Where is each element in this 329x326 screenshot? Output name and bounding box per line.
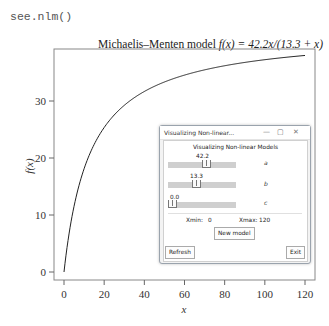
slider-c[interactable] [168,202,236,208]
slider-b[interactable] [168,182,236,188]
y-axis: 0102030 [35,95,54,278]
svg-text:30: 30 [35,95,47,107]
nlm-dialog: Visualizing Non-linear... — ▢ ✕ Visualiz… [159,125,311,264]
slider-c-thumb[interactable] [168,200,177,208]
xmin-input[interactable]: 0 [208,217,212,223]
minimize-icon[interactable]: — [263,128,270,136]
svg-text:120: 120 [297,288,314,300]
param-b-label: b [264,180,268,187]
svg-text:0: 0 [61,288,67,300]
xmax-input[interactable]: 120 [259,217,270,223]
dialog-titlebar[interactable]: Visualizing Non-linear... — ▢ ✕ [160,126,310,140]
svg-text:20: 20 [99,288,111,300]
dialog-title: Visualizing Non-linear... [164,129,234,136]
xmax-label: Xmax: [239,217,258,223]
slider-a[interactable] [168,162,236,168]
svg-text:60: 60 [179,288,191,300]
svg-text:80: 80 [219,288,231,300]
slider-b-thumb[interactable] [192,180,201,188]
svg-text:0: 0 [41,266,47,278]
y-axis-label: f(x) [23,158,36,174]
divider [168,213,302,214]
exit-button[interactable]: Exit [286,246,305,259]
svg-text:10: 10 [35,209,47,221]
xmin-label: Xmin: [186,217,203,223]
svg-text:20: 20 [35,152,47,164]
dialog-header: Visualizing Non-linear Models [164,144,307,150]
slider-a-value: 42.2 [196,153,209,159]
slider-a-thumb[interactable] [202,160,211,168]
dialog-body: Visualizing Non-linear Models 42.2 a 13.… [163,140,308,262]
svg-text:40: 40 [139,288,151,300]
param-a-label: a [264,159,268,166]
param-c-label: c [264,199,267,206]
new-model-button[interactable]: New model [214,227,255,240]
x-axis: 020406080100120 [61,280,314,300]
maximize-icon[interactable]: ▢ [277,128,284,136]
refresh-button[interactable]: Refresh [165,246,195,259]
close-icon[interactable]: ✕ [293,128,299,136]
slider-b-value: 13.3 [190,173,203,179]
x-axis-label: x [181,303,187,315]
svg-text:100: 100 [257,288,274,300]
